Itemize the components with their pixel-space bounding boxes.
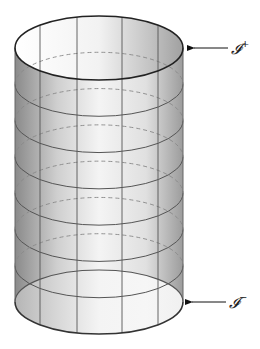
label-scri-plus: 𝓘+ [231,38,249,58]
label-scri-minus: 𝓘− [229,292,247,312]
cylinder-diagram: 𝓘+ 𝓘− [0,0,260,349]
